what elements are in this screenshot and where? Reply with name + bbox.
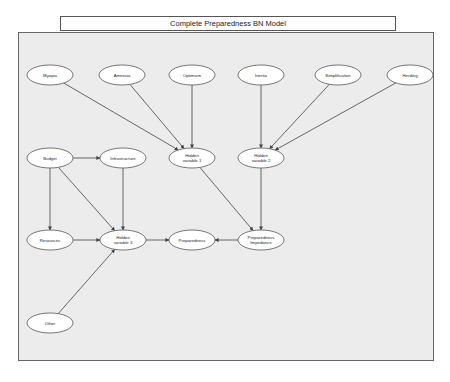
node-label: variable 3 xyxy=(114,240,133,245)
node-simplification[interactable]: Simplification xyxy=(315,65,361,85)
node-label: Amnesia xyxy=(114,73,131,78)
edge-herding-to-hidden2 xyxy=(275,83,396,150)
edge-myopia-to-hidden1 xyxy=(64,83,179,150)
node-label: Myopia xyxy=(43,73,57,78)
node-preparedness[interactable]: Preparedness xyxy=(169,230,215,250)
nodes-layer: MyopiaAmnesiaOptimismInertiaSimplificati… xyxy=(27,65,433,333)
node-label: Resources xyxy=(40,238,61,243)
node-label: Infrastructure xyxy=(110,156,136,161)
bayesian-network-diagram: MyopiaAmnesiaOptimismInertiaSimplificati… xyxy=(0,0,450,382)
edge-simplification-to-hidden2 xyxy=(270,84,330,148)
node-label: variable 2 xyxy=(252,158,271,163)
node-label: Impedance xyxy=(250,240,272,245)
node-label: variable 1 xyxy=(183,158,202,163)
node-other[interactable]: Other xyxy=(27,313,73,333)
node-label: Preparedness xyxy=(179,238,206,243)
node-amnesia[interactable]: Amnesia xyxy=(99,65,145,85)
edge-other-to-hidden3 xyxy=(58,249,115,313)
edge-amnesia-to-hidden1 xyxy=(130,84,184,148)
node-myopia[interactable]: Myopia xyxy=(27,65,73,85)
node-optimism[interactable]: Optimism xyxy=(169,65,215,85)
node-label: Optimism xyxy=(183,73,202,78)
node-label: Budget xyxy=(43,156,57,161)
node-hidden1[interactable]: Hiddenvariable 1 xyxy=(169,148,215,168)
node-hidden2[interactable]: Hiddenvariable 2 xyxy=(238,148,284,168)
node-label: Other xyxy=(45,321,56,326)
node-label: Simplification xyxy=(325,73,351,78)
edges-layer xyxy=(50,83,396,314)
node-herding[interactable]: Herding xyxy=(387,65,433,85)
edge-hidden1-to-impedance xyxy=(200,167,253,230)
node-label: Inertia xyxy=(255,73,268,78)
node-infrastructure[interactable]: Infrastructure xyxy=(100,148,146,168)
node-label: Herding xyxy=(402,73,418,78)
edge-budget-to-hidden3 xyxy=(58,167,114,230)
node-budget[interactable]: Budget xyxy=(27,148,73,168)
node-impedance[interactable]: PreparednessImpedance xyxy=(238,230,284,250)
node-hidden3[interactable]: Hiddenvariable 3 xyxy=(100,230,146,250)
node-inertia[interactable]: Inertia xyxy=(238,65,284,85)
node-resources[interactable]: Resources xyxy=(27,230,73,250)
